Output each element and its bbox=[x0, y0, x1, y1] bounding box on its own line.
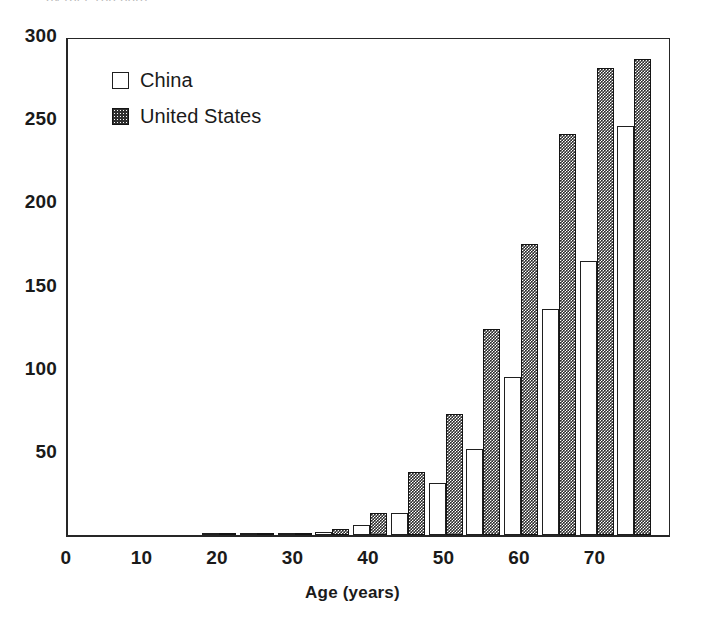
bar-china-age-75 bbox=[617, 126, 634, 535]
bar-china-age-65 bbox=[542, 309, 559, 535]
bar-united-states-age-70 bbox=[597, 68, 614, 535]
y-axis-tick-label: 200 bbox=[25, 191, 57, 213]
clipped-chart-title: ... by (per 100,000) bbox=[30, 0, 148, 1]
y-axis-tick-label: 300 bbox=[25, 25, 57, 47]
bar-united-states-age-65 bbox=[559, 134, 576, 535]
bar-china-age-20 bbox=[202, 533, 219, 535]
chart-legend: China United States bbox=[112, 69, 261, 141]
x-axis-tick-label: 0 bbox=[46, 547, 86, 569]
bar-china-age-60 bbox=[504, 377, 521, 535]
x-axis-tick-label: 50 bbox=[424, 547, 464, 569]
y-axis-tick-label: 250 bbox=[25, 108, 57, 130]
bar-china-age-25 bbox=[240, 533, 257, 535]
bar-china-age-45 bbox=[391, 513, 408, 535]
x-axis-title: Age (years) bbox=[0, 583, 705, 603]
legend-item-china: China bbox=[112, 69, 261, 91]
bar-united-states-age-55 bbox=[483, 329, 500, 535]
bar-china-age-70 bbox=[580, 261, 597, 535]
bar-china-age-30 bbox=[278, 533, 295, 535]
x-axis-tick-label: 60 bbox=[499, 547, 539, 569]
bar-united-states-age-50 bbox=[446, 414, 463, 535]
bar-united-states-age-60 bbox=[521, 244, 538, 535]
x-axis-tick-label: 40 bbox=[348, 547, 388, 569]
bar-china-age-35 bbox=[315, 532, 332, 535]
chart-figure: ... by (per 100,000) 50100150200250300 0… bbox=[0, 0, 705, 621]
bar-united-states-age-75 bbox=[634, 59, 651, 535]
legend-swatch-china-icon bbox=[112, 72, 129, 89]
bar-united-states-age-40 bbox=[370, 513, 387, 535]
legend-swatch-united-states-icon bbox=[112, 108, 129, 125]
bar-united-states-age-45 bbox=[408, 472, 425, 535]
x-axis-tick-label: 10 bbox=[122, 547, 162, 569]
legend-label-china: China bbox=[140, 69, 193, 92]
legend-item-united-states: United States bbox=[112, 105, 261, 127]
legend-label-united-states: United States bbox=[140, 105, 261, 128]
bar-united-states-age-35 bbox=[332, 529, 349, 535]
bar-united-states-age-30 bbox=[295, 533, 312, 535]
y-axis-tick-label: 150 bbox=[25, 275, 57, 297]
bar-united-states-age-25 bbox=[257, 533, 274, 535]
x-axis-tick-label: 30 bbox=[273, 547, 313, 569]
bar-united-states-age-20 bbox=[219, 533, 236, 535]
bar-china-age-50 bbox=[429, 483, 446, 535]
y-axis-tick-label: 100 bbox=[25, 358, 57, 380]
bar-china-age-40 bbox=[353, 525, 370, 535]
x-axis-tick-label: 70 bbox=[575, 547, 615, 569]
y-axis-tick-label: 50 bbox=[35, 441, 57, 463]
bar-china-age-55 bbox=[466, 449, 483, 535]
x-axis-tick-label: 20 bbox=[197, 547, 237, 569]
